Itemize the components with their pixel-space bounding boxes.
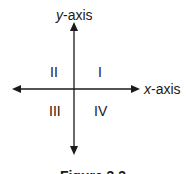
- y-axis-variable: y: [56, 7, 63, 23]
- y-axis-label: y-axis: [56, 8, 93, 22]
- y-axis-down-arrow-icon: [70, 146, 78, 155]
- quadrant-label-iii: III: [49, 104, 61, 118]
- quadrant-label-ii: II: [50, 65, 58, 79]
- y-axis-up-arrow-icon: [70, 22, 78, 31]
- quadrant-label-i: I: [98, 65, 102, 79]
- y-axis-suffix: -axis: [63, 7, 93, 23]
- x-axis-right-arrow-icon: [131, 85, 140, 93]
- x-axis-variable: x: [144, 81, 151, 97]
- x-axis-suffix: -axis: [151, 81, 181, 97]
- x-axis-label: x-axis: [144, 82, 181, 96]
- x-axis-left-arrow-icon: [12, 85, 21, 93]
- figure-caption: Figure 3.3: [0, 168, 186, 174]
- quadrant-label-iv: IV: [94, 104, 107, 118]
